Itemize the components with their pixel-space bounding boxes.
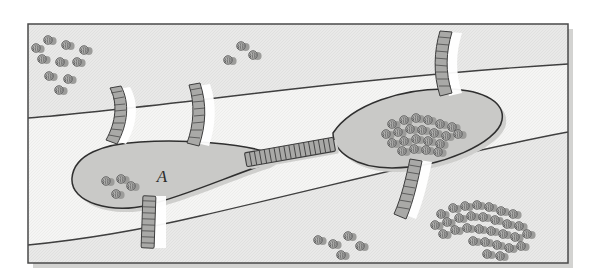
crossing-band	[141, 196, 156, 248]
figure-canvas: A	[0, 0, 594, 280]
crossing-patch-a-lower[interactable]	[141, 196, 166, 248]
patch-a-label: A	[156, 167, 168, 186]
habitat-map-svg: A	[0, 0, 594, 280]
map-body: A	[28, 24, 568, 263]
